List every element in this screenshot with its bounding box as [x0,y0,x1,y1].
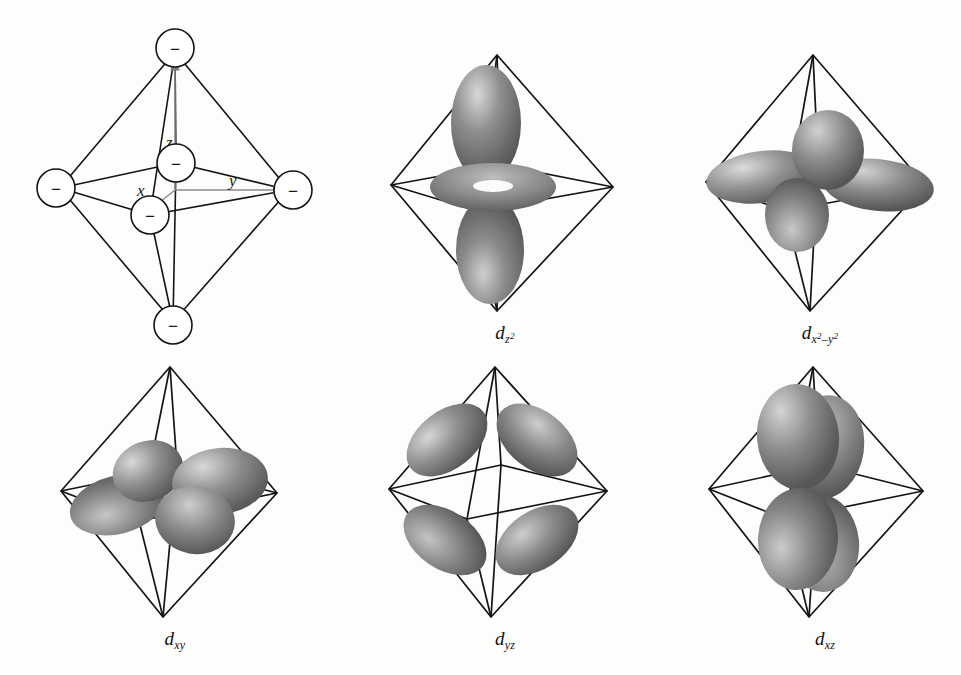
lobe-z-down [456,196,524,304]
torus-hole [473,180,513,192]
ligand-charge-front: − [131,196,169,234]
lobe-front-y [765,178,829,252]
caption-dx2y2-sup2: 2 [833,331,838,341]
caption-dxy-sub: xy [174,638,185,652]
axis-label-y: y [227,171,237,190]
svg-text:−: − [168,317,178,336]
panel-octahedron-axes: z y x − − − − [0,0,330,360]
svg-text:−: − [170,40,180,59]
caption-dxz: dxz [705,628,945,653]
ligand-charge-back: − [157,144,195,182]
caption-dyz-sub: yz [505,638,515,652]
orbital-lobes-dxz [753,381,871,596]
caption-dxz-base: d [815,628,825,649]
ligand-charge-bottom: − [154,306,192,344]
svg-text:−: − [51,180,61,199]
svg-text:−: − [288,182,298,201]
caption-dz2-base: d [495,322,505,343]
caption-dxy: dxy [55,628,295,653]
caption-dx2y2-base: d [802,322,812,343]
ligand-charge-left: − [37,169,75,207]
caption-dxy-base: d [165,628,175,649]
panel-dz2 [385,45,625,320]
caption-dxz-sub: xz [825,638,835,652]
panel-dxz [705,355,955,625]
panel-dyz [385,355,635,625]
caption-dz2-sup: 2 [510,331,515,341]
caption-dx2-y2: dx2–y2 [700,322,940,347]
panel-dxy [55,355,305,625]
caption-dyz: dyz [385,628,625,653]
panel-dx2-y2 [700,45,945,320]
svg-text:−: − [171,155,181,174]
svg-text:−: − [145,207,155,226]
ligand-charge-right: − [274,171,312,209]
caption-dz2: dz2 [385,322,625,347]
orbital-lobes-dx2y2 [703,110,936,252]
lobe-yz-lower-left [391,490,500,590]
orbital-lobes-dyz [391,389,592,590]
ligand-charge-top: − [156,29,194,67]
octahedron-wireframe-dyz [389,367,607,617]
lobe-back-y [792,110,864,190]
orbital-figure: z y x − − − − [0,0,961,675]
caption-dyz-base: d [495,628,505,649]
